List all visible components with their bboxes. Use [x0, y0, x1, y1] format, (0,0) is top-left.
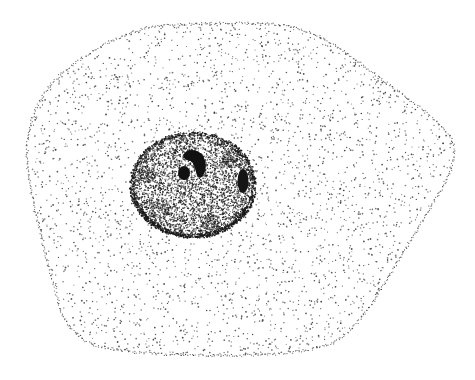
membrane-dot [333, 342, 334, 343]
stipple-dot [322, 161, 324, 163]
stipple-dot [206, 310, 208, 312]
stipple-dot [377, 175, 379, 177]
nucleus-dot [222, 151, 223, 152]
rim-dot [206, 236, 208, 238]
membrane-dot [201, 22, 202, 23]
nucleus-dot [241, 198, 242, 199]
stipple-dot [376, 261, 377, 262]
nucleus-dot [164, 146, 165, 147]
membrane-dot [42, 95, 43, 96]
nucleus-dot [149, 193, 150, 194]
stipple-dot [354, 65, 356, 67]
membrane-dot [275, 355, 276, 356]
nucleus-dot [175, 162, 177, 164]
stipple-dot [69, 293, 71, 295]
stipple-dot [348, 236, 349, 237]
rim-dot [149, 148, 151, 150]
stipple-dot [84, 321, 86, 323]
stipple-dot [436, 135, 437, 136]
stipple-dot [253, 59, 254, 60]
nucleus-dot [197, 138, 198, 139]
stipple-dot [258, 344, 260, 346]
stipple-dot [185, 268, 186, 269]
stipple-dot [301, 58, 303, 60]
stipple-dot [324, 149, 326, 151]
stipple-dot [293, 264, 294, 265]
rim-dot [161, 227, 163, 229]
stipple-dot [335, 272, 336, 273]
nucleus-dot [149, 188, 150, 189]
nucleus-dot [210, 165, 212, 167]
nucleus-dot [172, 171, 173, 172]
nucleus-dot [203, 188, 204, 189]
stipple-dot [164, 251, 166, 253]
membrane-dot [198, 354, 199, 355]
rim-dot [144, 152, 146, 154]
chromatin-dot [150, 214, 151, 215]
stipple-dot [161, 39, 162, 40]
nucleus-dot [149, 215, 151, 217]
rim-dot [175, 234, 177, 236]
membrane-dot [28, 174, 29, 175]
membrane-dot [217, 354, 218, 355]
stipple-dot [404, 106, 405, 107]
chromatin-dot [204, 215, 205, 216]
membrane-dot [361, 319, 362, 320]
stipple-dot [373, 181, 374, 182]
nucleus-dot [215, 150, 216, 151]
nucleus-dot [154, 187, 156, 189]
stipple-dot [304, 286, 306, 288]
nucleus-dot [155, 221, 157, 223]
membrane-dot [347, 332, 348, 333]
stipple-dot [330, 49, 332, 51]
nucleus-dot [172, 192, 174, 194]
rim-dot [136, 207, 137, 208]
stipple-dot [144, 33, 145, 34]
stipple-dot [226, 322, 228, 324]
stipple-dot [138, 347, 139, 348]
stipple-dot [393, 207, 395, 209]
stipple-dot [288, 143, 289, 144]
stipple-dot [77, 204, 79, 206]
rim-dot [242, 157, 243, 158]
stipple-dot [94, 257, 96, 259]
stipple-dot [122, 201, 123, 202]
stipple-dot [347, 71, 349, 73]
stipple-dot [294, 53, 295, 54]
stipple-dot [99, 241, 100, 242]
nucleus-dot [179, 217, 180, 218]
stipple-dot [214, 68, 215, 69]
membrane-dot [111, 40, 112, 41]
nucleus-dot [235, 164, 236, 165]
nucleus-dot [200, 218, 201, 219]
nucleus-dot [224, 143, 225, 144]
stipple-dot [359, 145, 360, 146]
stipple-dot [317, 301, 319, 303]
membrane-dot [193, 24, 194, 25]
stipple-dot [199, 279, 200, 280]
stipple-dot [321, 139, 322, 140]
stipple-dot [247, 150, 248, 151]
stipple-dot [65, 194, 66, 195]
nucleus-dot [179, 165, 180, 166]
stipple-dot [338, 245, 339, 246]
membrane-dot [232, 24, 233, 25]
stipple-dot [115, 317, 117, 319]
nucleus-dot [162, 207, 163, 208]
nucleus-dot [157, 188, 158, 189]
membrane-dot [438, 192, 439, 193]
stipple-dot [130, 68, 132, 70]
nucleus-dot [210, 188, 211, 189]
stipple-dot [353, 107, 355, 109]
stipple-dot [252, 225, 254, 227]
stipple-dot [289, 300, 291, 302]
nucleus-dot [156, 173, 157, 174]
stipple-dot [321, 228, 322, 229]
stipple-dot [169, 128, 171, 130]
nucleus-dot [185, 222, 186, 223]
nucleus-dot [217, 217, 219, 219]
chromatin-dot [228, 164, 229, 165]
nucleus-dot [215, 143, 217, 145]
nucleus-dot [248, 191, 249, 192]
stipple-dot [131, 267, 132, 268]
